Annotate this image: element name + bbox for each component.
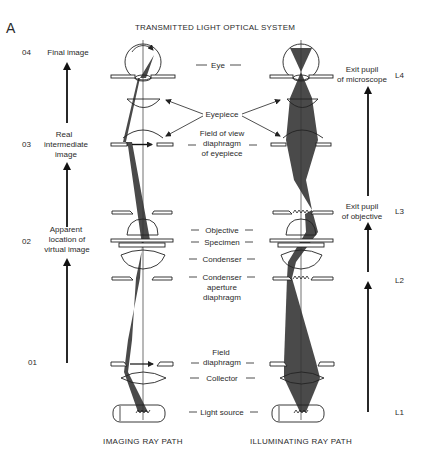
specimen-slide — [119, 243, 165, 247]
label-field-diaphragm-1: Field — [212, 348, 229, 357]
level-02-label-1: Apparent — [50, 225, 83, 234]
level-03-label-1: Real — [56, 130, 73, 139]
level-L3-id: L3 — [395, 207, 404, 216]
label-fov-diaphragm-1: Field of view — [200, 129, 245, 138]
objective-diaphragm-plate — [112, 211, 133, 214]
level-03-label-3: image — [55, 150, 77, 159]
illuminating-ray-path: ILLUMINATING RAY PATH — [250, 40, 352, 446]
component-labels: Eye Eyepiece Field of view diaphragm of … — [166, 61, 280, 417]
label-collector: Collector — [206, 374, 238, 383]
field-diaphragm-plate — [111, 362, 127, 366]
diagram-title: TRANSMITTED LIGHT OPTICAL SYSTEM — [135, 23, 295, 32]
specimen-stage — [111, 239, 173, 242]
left-level-column: 04 Final image Real 03 intermediate imag… — [22, 48, 90, 367]
level-02-id: 02 — [22, 237, 31, 246]
label-fov-diaphragm-2: diaphragm — [203, 139, 241, 148]
level-01-id: 01 — [28, 358, 37, 367]
label-fov-diaphragm-3: of eyepiece — [202, 149, 243, 158]
caption-illuminating-ray-path: ILLUMINATING RAY PATH — [250, 437, 352, 446]
level-L1-id: L1 — [395, 408, 404, 417]
illum-beam-upper — [286, 72, 318, 210]
eye-stop-plate — [111, 75, 135, 78]
fov-diaphragm-plate — [111, 143, 127, 146]
illum-beam-lower — [284, 278, 320, 412]
eye-stop-plate-right — [270, 75, 293, 78]
label-condenser-aperture-1: Condenser — [202, 273, 241, 282]
label-eyepiece: Eyepiece — [206, 110, 239, 119]
specimen-stage-right — [270, 239, 333, 242]
level-02-label-3: virtual image — [44, 245, 90, 254]
level-L4-label-2: of microscope — [337, 75, 387, 84]
field-diaphragm-plate-right — [270, 362, 287, 366]
condenser-aperture-plate — [112, 277, 133, 280]
imaging-ray-path: IMAGING RAY PATH — [103, 40, 183, 446]
label-eye: Eye — [211, 61, 225, 70]
right-level-column: Exit pupil of microscope L4 Exit pupil o… — [337, 65, 404, 417]
level-03-id: 03 — [22, 140, 31, 149]
level-04-label: Final image — [47, 48, 89, 57]
label-objective: Objective — [205, 226, 239, 235]
label-field-diaphragm-2: diaphragm — [203, 358, 241, 367]
label-condenser: Condenser — [202, 255, 241, 264]
level-L4-id: L4 — [395, 71, 404, 80]
panel-label: A — [6, 20, 16, 36]
condenser-aperture-plate-right — [273, 277, 292, 280]
label-light-source: Light source — [200, 408, 244, 417]
level-02-label-2: location of — [49, 235, 86, 244]
label-specimen: Specimen — [204, 238, 240, 247]
caption-imaging-ray-path: IMAGING RAY PATH — [103, 437, 183, 446]
objective-diaphragm-plate-right — [273, 211, 292, 214]
label-condenser-aperture-2: aperture — [207, 283, 237, 292]
level-L3-label-2: of objective — [342, 212, 383, 221]
level-03-label-2: intermediate — [44, 140, 89, 149]
level-L2-id: L2 — [395, 276, 404, 285]
level-L4-label-1: Exit pupil — [346, 65, 379, 74]
level-04-id: 04 — [22, 48, 31, 57]
specimen-slide-right — [278, 243, 324, 247]
eye-rotation-arrow-icon — [132, 46, 153, 52]
optical-system-diagram: A TRANSMITTED LIGHT OPTICAL SYSTEM 04 Fi… — [0, 0, 429, 454]
imaging-beam — [123, 55, 154, 412]
fov-diaphragm-plate-right — [271, 143, 286, 146]
label-condenser-aperture-3: diaphragm — [203, 293, 241, 302]
level-L3-label-1: Exit pupil — [346, 202, 379, 211]
